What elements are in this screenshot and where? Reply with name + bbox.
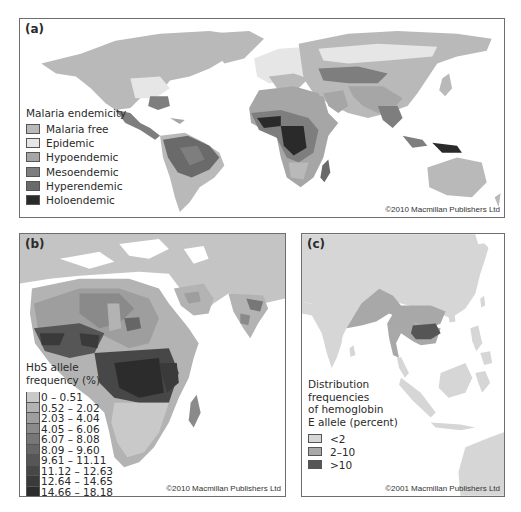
legend-item: 2.03 – 4.04	[26, 413, 113, 424]
legend-label: >10	[330, 458, 352, 472]
legend-swatch	[26, 392, 40, 403]
legend-swatch	[26, 138, 40, 148]
legend-swatch	[26, 403, 40, 414]
legend-item: Mesoendemic	[26, 165, 126, 179]
legend-swatch	[308, 447, 322, 456]
legend-title: Distribution frequencies of hemoglobin E…	[308, 378, 398, 428]
legend-item: >10	[308, 458, 398, 471]
panel-label-b: (b)	[25, 237, 45, 251]
legend-swatch	[26, 455, 40, 466]
legend-swatch	[26, 466, 40, 477]
panel-label-a: (a)	[25, 22, 44, 36]
legend-swatch	[26, 476, 40, 487]
legend-swatch	[26, 167, 40, 177]
legend-label: Hypoendemic	[46, 150, 118, 164]
legend-swatch	[26, 195, 40, 205]
legend-item: 12.64 – 14.65	[26, 476, 113, 487]
legend-item: 2–10	[308, 445, 398, 458]
legend-swatch	[26, 181, 40, 191]
legend-swatch	[26, 124, 40, 134]
legend-title-line: frequencies	[308, 391, 398, 404]
panel-label-c: (c)	[307, 237, 325, 251]
legend-item: Holoendemic	[26, 193, 126, 207]
legend-label: <2	[330, 432, 345, 446]
legend-item: Hypoendemic	[26, 150, 126, 164]
legend-title-line: frequency (%)	[26, 374, 113, 387]
legend-label: 14.66 – 18.18	[41, 487, 113, 498]
legend-title-line: HbS allele	[26, 361, 113, 374]
legend-swatch	[26, 413, 40, 424]
legend-label: Mesoendemic	[46, 165, 119, 179]
legend-title-line: E allele (percent)	[308, 416, 398, 429]
legend-label: Holoendemic	[46, 193, 115, 207]
legend-item: 0 – 0.51	[26, 392, 113, 403]
copyright-credit: ©2001 Macmillan Publishers Ltd	[385, 484, 500, 493]
legend-item: 14.66 – 18.18	[26, 487, 113, 498]
legend-swatch	[26, 487, 40, 498]
legend-item: Malaria free	[26, 122, 126, 136]
legend-label: Hyperendemic	[46, 179, 122, 193]
legend-swatch	[26, 424, 40, 435]
legend-label: Malaria free	[46, 122, 109, 136]
legend-item: Hyperendemic	[26, 179, 126, 193]
legend-hbs-allele-frequency: HbS allele frequency (%) 0 – 0.51 0.52 –…	[26, 361, 113, 497]
legend-label: Epidemic	[46, 136, 94, 150]
legend-label: 6.07 – 8.08	[41, 434, 100, 445]
legend-label: 12.64 – 14.65	[41, 476, 113, 487]
legend-malaria-endemicity: Malaria endemicity Malaria free Epidemic…	[26, 106, 126, 207]
legend-hbe-allele-distribution: Distribution frequencies of hemoglobin E…	[308, 378, 398, 471]
copyright-credit: ©2010 Macmillan Publishers Ltd	[385, 205, 500, 214]
legend-swatch	[308, 434, 322, 443]
legend-swatch	[26, 445, 40, 456]
legend-title-line: of hemoglobin	[308, 403, 398, 416]
legend-item: 6.07 – 8.08	[26, 434, 113, 445]
legend-swatch	[308, 460, 322, 469]
panel-b-hbs-allele-map: (b) HbS allele frequency (%) 0 – 0.51 0.…	[19, 233, 286, 497]
legend-item: Epidemic	[26, 136, 126, 150]
panel-c-hbe-allele-map: (c) Distribution frequencies of hemoglob…	[301, 233, 505, 497]
legend-label: 9.61 – 11.11	[41, 455, 106, 466]
legend-item: 9.61 – 11.11	[26, 455, 113, 466]
legend-title: HbS allele frequency (%)	[26, 361, 113, 387]
legend-label: 2.03 – 4.04	[41, 413, 100, 424]
legend-label: 0 – 0.51	[41, 392, 83, 403]
legend-swatch	[26, 152, 40, 162]
legend-title-line: Distribution	[308, 378, 398, 391]
legend-title: Malaria endemicity	[26, 106, 126, 120]
legend-swatch	[26, 434, 40, 445]
legend-label: 2–10	[330, 445, 355, 459]
legend-item: <2	[308, 432, 398, 445]
copyright-credit: ©2010 Macmillan Publishers Ltd	[166, 484, 281, 493]
panel-a-malaria-endemicity-map: (a) Malaria endemicity Malaria free Epid…	[19, 18, 505, 218]
